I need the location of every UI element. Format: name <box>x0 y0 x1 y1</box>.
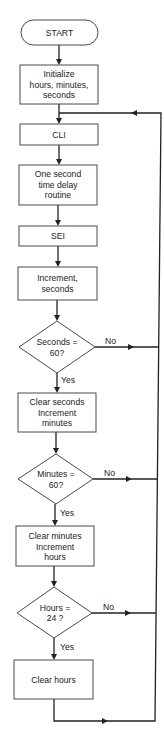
node-sei-label: SEI <box>51 231 65 241</box>
decision-minutes: Minutes = 60? <box>18 454 93 504</box>
decision-hours-line-1: Hours = <box>40 603 70 613</box>
arrow-down-icon <box>51 654 57 660</box>
arrow-down-icon <box>56 159 62 165</box>
node-clrsec-line-2: Increment <box>38 408 77 418</box>
node-clear-seconds: Clear seconds Increment minutes <box>18 393 96 432</box>
decision-hours-line-2: 24 ? <box>47 613 64 623</box>
arrow-right-icon <box>102 718 108 724</box>
yes-label-minutes: Yes <box>60 508 74 518</box>
node-inc-line-2: seconds <box>41 284 73 294</box>
decision-minutes-line-1: Minutes = <box>37 469 75 479</box>
arrow-down-icon <box>54 387 60 393</box>
arrow-right-icon <box>126 476 132 482</box>
node-sei: SEI <box>19 226 97 246</box>
node-init-line-3: seconds <box>43 90 75 100</box>
arrow-down-icon <box>54 315 60 321</box>
arrow-down-icon <box>55 261 61 267</box>
node-start-label: START <box>46 28 74 38</box>
node-init-line-2: hours, minutes, <box>30 80 89 90</box>
node-cli: CLI <box>20 124 98 145</box>
arrow-right-icon <box>125 610 131 616</box>
node-clrmin-line-2: Increment <box>36 542 75 552</box>
node-cli-label: CLI <box>52 130 65 140</box>
node-initialize: Initialize hours, minutes, seconds <box>20 65 98 104</box>
yes-label-seconds: Yes <box>61 375 75 385</box>
node-delay: One second time delay routine <box>19 165 97 205</box>
node-delay-line-3: routine <box>45 190 71 200</box>
no-label-seconds: No <box>105 336 116 346</box>
decision-seconds-line-2: 60? <box>50 348 65 358</box>
node-clear-hours: Clear hours <box>14 660 93 699</box>
yes-label-hours: Yes <box>60 642 74 652</box>
node-delay-line-1: One second <box>35 169 82 179</box>
decision-minutes-line-2: 60? <box>49 480 64 490</box>
node-delay-line-2: time delay <box>38 180 78 190</box>
node-start: START <box>21 20 98 45</box>
arrow-right-icon <box>128 344 134 350</box>
node-clrsec-line-1: Clear seconds <box>30 397 85 407</box>
node-inc-line-1: Increment, <box>37 273 78 283</box>
clock-flowchart: START Initialize hours, minutes, seconds… <box>0 0 164 740</box>
no-label-hours: No <box>103 602 114 612</box>
arrow-down-icon <box>56 59 62 65</box>
node-increment-seconds: Increment, seconds <box>18 267 97 300</box>
arrow-down-icon <box>51 581 57 587</box>
arrow-down-icon <box>55 220 61 226</box>
decision-seconds: Seconds = 60? <box>19 321 95 373</box>
arrow-down-icon <box>52 520 58 526</box>
arrow-down-icon <box>56 118 62 124</box>
arrow-down-icon <box>53 448 59 454</box>
node-clear-minutes: Clear minutes Increment hours <box>16 526 94 566</box>
node-clrmin-line-3: hours <box>44 552 66 562</box>
decision-seconds-line-1: Seconds = <box>37 337 78 347</box>
node-clrmin-line-1: Clear minutes <box>28 531 81 541</box>
no-label-minutes: No <box>104 468 115 478</box>
node-init-line-1: Initialize <box>43 69 74 79</box>
decision-hours: Hours = 24 ? <box>17 587 92 638</box>
node-clrsec-line-3: minutes <box>42 418 72 428</box>
arrow-left-icon <box>131 110 137 116</box>
node-clrhr-label: Clear hours <box>31 675 75 685</box>
